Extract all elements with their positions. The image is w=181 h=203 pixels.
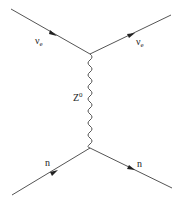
- incoming-neutron-line: [12, 148, 90, 195]
- incoming-neutron-label: n: [45, 157, 50, 168]
- outgoing-neutron-label: n: [137, 158, 142, 169]
- z-boson-propagator: [88, 54, 92, 148]
- outgoing-neutron-arrow-icon: [127, 165, 135, 170]
- incoming-neutrino-arrow-icon: [49, 30, 57, 36]
- outgoing-neutrino-arrow-icon: [127, 33, 135, 38]
- z-boson-label: Z0: [73, 91, 83, 103]
- outgoing-neutrino-label: νe: [136, 36, 144, 49]
- incoming-neutrino-label: νe: [35, 35, 43, 48]
- feynman-diagram: νe νe Z0 n n: [0, 0, 181, 203]
